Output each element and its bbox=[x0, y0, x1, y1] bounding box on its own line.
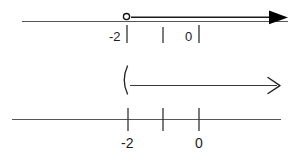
number-line-diagram: -2 0 -2 0 bbox=[0, 0, 293, 164]
diagram-canvas bbox=[0, 0, 293, 164]
figure-middle-group bbox=[124, 66, 280, 94]
top-label-zero: 0 bbox=[185, 30, 192, 43]
bottom-label-minus2: -2 bbox=[121, 136, 133, 150]
left-parenthesis-icon bbox=[124, 66, 127, 94]
figure-top-group bbox=[22, 11, 288, 44]
top-arrowhead-icon bbox=[269, 11, 288, 25]
open-circle-endpoint-icon bbox=[123, 14, 129, 20]
figure-bottom-group bbox=[12, 108, 281, 131]
top-label-minus2: -2 bbox=[109, 30, 121, 43]
bottom-label-zero: 0 bbox=[195, 136, 203, 150]
